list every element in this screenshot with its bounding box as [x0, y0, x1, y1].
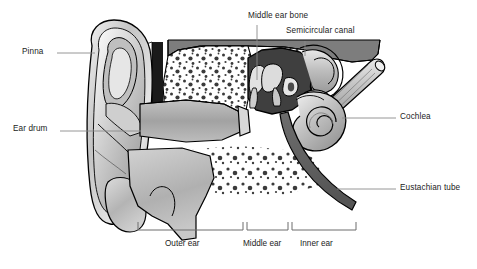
label-semicircular-canal: Semicircular canal	[286, 27, 355, 35]
label-pinna: Pinna	[22, 48, 43, 56]
ear-anatomy-illustration	[0, 0, 477, 269]
label-middle-ear-bone: Middle ear bone	[248, 12, 308, 20]
bracket-inner-ear	[292, 222, 356, 230]
label-eustachian-tube: Eustachian tube	[400, 184, 460, 192]
cochlea	[293, 92, 346, 151]
label-cochlea: Cochlea	[400, 113, 431, 121]
bracket-middle-ear	[247, 222, 288, 230]
bracket-label-middle-ear: Middle ear	[243, 239, 281, 248]
label-ear-drum: Ear drum	[13, 125, 47, 133]
ear-diagram: Pinna Ear drum Middle ear bone Semicircu…	[0, 0, 477, 269]
bracket-label-inner-ear: Inner ear	[300, 239, 333, 248]
bracket-label-outer-ear: Outer ear	[165, 239, 200, 248]
ear-drum	[238, 106, 250, 136]
